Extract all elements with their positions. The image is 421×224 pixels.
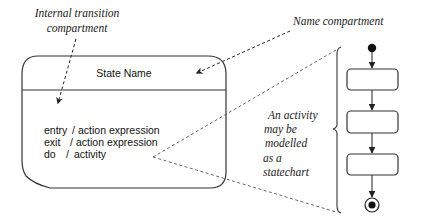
activity-state-3	[347, 154, 398, 175]
activity-note-line-3: modelled	[265, 137, 307, 149]
initial-state-icon	[368, 44, 376, 52]
state-name: State Name	[96, 67, 152, 79]
internal-transition-label-line2: compartment	[47, 22, 108, 35]
transition-do-action: activity	[74, 148, 107, 160]
expansion-line-top	[153, 50, 336, 157]
name-compartment-arrow	[197, 31, 290, 73]
activity-note-line-4: as a	[263, 152, 282, 164]
uml-state-diagram: Internal transition compartment Name com…	[0, 0, 421, 224]
transition-exit-action: action expression	[76, 136, 158, 148]
activity-statechart	[347, 44, 398, 212]
final-state-icon	[365, 198, 379, 212]
activity-note: An activity may be modelled as a statech…	[263, 109, 318, 178]
name-compartment-label: Name compartment	[292, 15, 384, 28]
internal-transition-label-line1: Internal transition	[34, 7, 120, 19]
activity-state-2	[347, 111, 398, 133]
transition-exit-event: exit	[44, 136, 60, 148]
activity-note-line-5: statechart	[263, 166, 310, 178]
activity-note-line-2: may be	[264, 123, 297, 136]
transition-exit-sep: /	[70, 136, 73, 148]
transition-entry-sep: /	[72, 124, 75, 136]
transition-entry-action: action expression	[78, 124, 160, 136]
brace	[333, 47, 341, 213]
transition-do-event: do	[44, 148, 56, 160]
transition-entry-event: entry	[44, 124, 68, 136]
activity-state-1	[347, 69, 398, 90]
internal-transitions-list: entry / action expression exit / action …	[44, 124, 160, 160]
internal-transition-arrow	[58, 39, 76, 103]
transition-do-sep: /	[66, 148, 69, 160]
activity-note-line-1: An activity	[267, 109, 318, 122]
